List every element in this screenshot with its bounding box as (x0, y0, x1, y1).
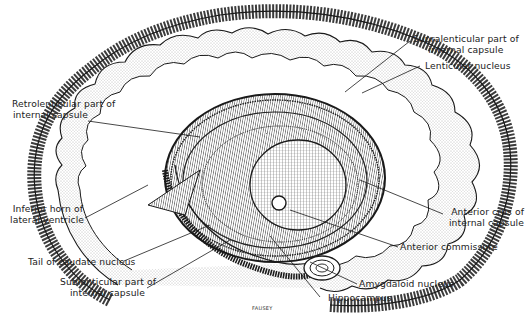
label-anterior-commissure-text: Anterior commissure (400, 241, 498, 252)
label-lenticular-text: Lenticular nucleus (425, 60, 511, 71)
label-sublenticular: Sublenticular part of internal capsule (60, 276, 145, 298)
label-retrolenticular-line2: internal capsule (8, 109, 88, 120)
label-hippocampus-text: Hippocampus (328, 292, 392, 303)
label-anterior-crus: Anterior crus of internal capsule (440, 206, 524, 228)
label-supralenticular-line2: internal capsule (413, 44, 519, 55)
label-anterior-crus-line2: internal capsule (440, 217, 524, 228)
label-retrolenticular-line1: Retrolenticular part of (12, 98, 92, 109)
label-tail-caudate-text: Tail of caudate nucleus (28, 256, 135, 267)
label-hippocampus: Hippocampus (328, 292, 392, 303)
artist-signature: FAUSEY (252, 305, 273, 311)
lenticular-nucleus-shape (250, 140, 346, 230)
anterior-commissure-shape (272, 196, 286, 210)
label-amygdaloid-nucleus: Amygdaloid nucleus (359, 278, 454, 289)
label-lenticular-nucleus: Lenticular nucleus (425, 60, 511, 71)
label-sublenticular-line2: internal capsule (60, 287, 145, 298)
label-tail-caudate: Tail of caudate nucleus (28, 256, 135, 267)
label-amygdaloid-text: Amygdaloid nucleus (359, 278, 454, 289)
label-anterior-crus-line1: Anterior crus of (440, 206, 524, 217)
label-supralenticular-line1: Supralenticular part of (413, 33, 519, 44)
label-inferior-horn-line2: lateral ventricle (10, 214, 83, 225)
label-retrolenticular: Retrolenticular part of internal capsule (8, 98, 88, 120)
label-anterior-commissure: Anterior commissure (400, 241, 498, 252)
label-supralenticular: Supralenticular part of internal capsule (413, 33, 519, 55)
label-sublenticular-line1: Sublenticular part of (60, 276, 145, 287)
label-inferior-horn-line1: Inferior horn of (10, 203, 83, 214)
label-inferior-horn: Inferior horn of lateral ventricle (10, 203, 83, 225)
